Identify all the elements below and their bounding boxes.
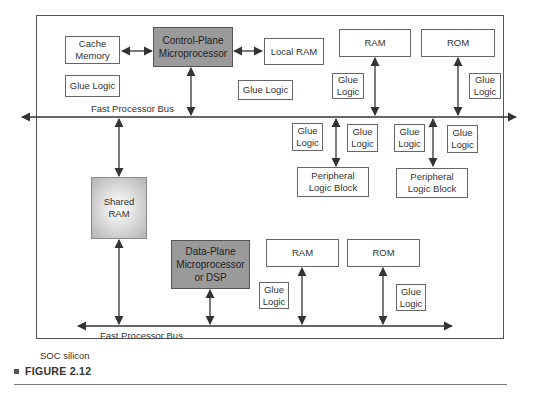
shared-ram-block: Shared RAM <box>91 177 147 239</box>
rom-bottom-block: ROM <box>347 239 420 267</box>
glue-logic-left-block: Glue Logic <box>65 75 120 97</box>
peripheral-logic-block-1: Peripheral Logic Block <box>297 167 369 197</box>
glue-logic-p1-left-block: Glue Logic <box>292 123 323 151</box>
glue-logic-p1-right-block: Glue Logic <box>347 124 378 152</box>
top-bus-label: Fast Processor Bus <box>91 103 174 114</box>
glue-logic-rom-bottom-block: Glue Logic <box>396 284 426 311</box>
soc-silicon-label: SOC silicon <box>40 350 90 361</box>
ram-bottom-block: RAM <box>266 239 339 267</box>
glue-logic-p2-left-block: Glue Logic <box>394 124 425 152</box>
bottom-bus-label: Fast Processor Bus <box>100 330 183 341</box>
bullet-square-icon <box>14 369 19 374</box>
peripheral-logic-block-2: Peripheral Logic Block <box>396 168 468 198</box>
figure-caption: FIGURE 2.12 <box>14 365 91 377</box>
glue-logic-ram-bottom-block: Glue Logic <box>259 282 289 309</box>
ram-top-block: RAM <box>339 29 411 57</box>
local-ram-block: Local RAM <box>264 38 324 65</box>
data-plane-microprocessor-block: Data-Plane Microprocessor or DSP <box>171 240 250 289</box>
glue-logic-ram-top-block: Glue Logic <box>332 73 364 99</box>
control-plane-microprocessor-block: Control-Plane Microprocessor <box>153 27 233 67</box>
cache-memory-block: Cache Memory <box>65 36 120 64</box>
glue-logic-center-block: Glue Logic <box>238 80 293 100</box>
glue-logic-rom-top-block: Glue Logic <box>469 73 501 99</box>
caption-rule <box>14 384 507 385</box>
glue-logic-p2-right-block: Glue Logic <box>447 125 478 153</box>
figure-caption-text: FIGURE 2.12 <box>25 365 91 377</box>
rom-top-block: ROM <box>421 29 495 57</box>
